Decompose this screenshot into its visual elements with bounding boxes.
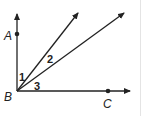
ray-middle-1 [17, 13, 78, 91]
point-a-dot [15, 32, 20, 37]
vertex-b-label: B [4, 90, 12, 104]
angle-diagram: A B C 1 2 3 [0, 0, 144, 116]
angle-2-label: 2 [47, 53, 53, 65]
point-a-label: A [3, 29, 12, 43]
point-c-dot [106, 89, 111, 94]
angle-3-label: 3 [34, 80, 40, 92]
point-c-label: C [103, 97, 112, 111]
angle-1-label: 1 [19, 71, 25, 83]
